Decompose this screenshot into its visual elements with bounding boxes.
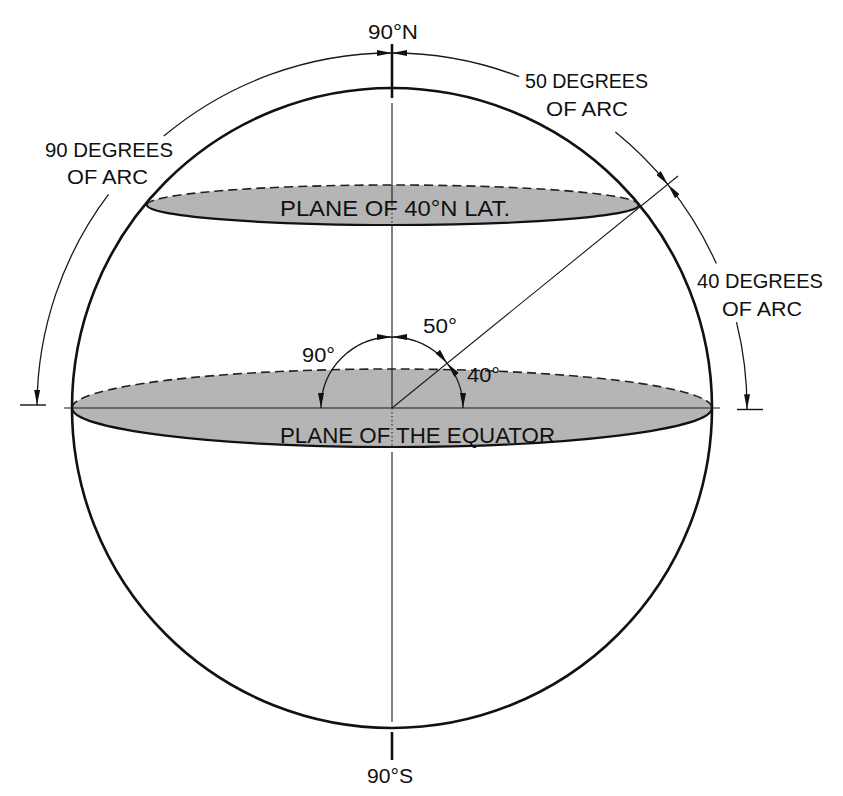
south-pole-label: 90°S — [367, 765, 413, 787]
arc-50-label-line1: 50 DEGREES — [525, 70, 648, 92]
arc-90-label-line2: OF ARC — [67, 166, 148, 188]
arc-40-label-line2: OF ARC — [722, 298, 802, 320]
arc-40-upper-segment — [668, 185, 716, 264]
arc-50-label-line2: OF ARC — [546, 98, 628, 120]
arc-50-upper-segment — [392, 53, 519, 77]
latitude-sphere-diagram: 90°N 50 DEGREES OF ARC 90 DEGREES OF ARC… — [0, 0, 843, 796]
arc-90-label-line1: 90 DEGREES — [45, 139, 173, 161]
arc-90-upper-segment — [164, 53, 392, 136]
angle-90-label: 90° — [302, 344, 335, 366]
angle-50-label: 50° — [423, 315, 457, 337]
arc-40-lower-segment — [737, 322, 748, 409]
arc-40-label-line1: 40 DEGREES — [697, 270, 823, 292]
angle-50-arc — [392, 337, 447, 363]
north-pole-label: 90°N — [368, 21, 418, 43]
arc-50-lower-segment — [615, 132, 668, 185]
angle-40-label: 40° — [467, 364, 500, 386]
plane-of-latitude-label: PLANE OF 40°N LAT. — [280, 196, 510, 221]
plane-of-equator-label: PLANE OF THE EQUATOR — [280, 423, 555, 448]
